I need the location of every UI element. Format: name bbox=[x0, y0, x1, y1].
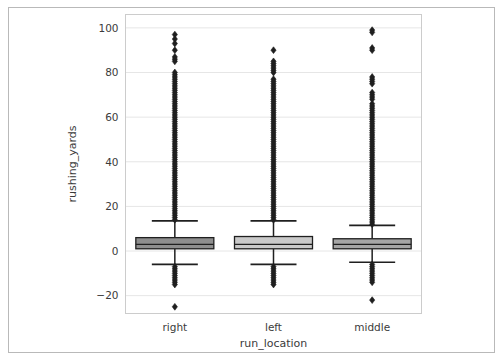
x-tick-label-right: right bbox=[162, 321, 187, 333]
x-tick-label-left: left bbox=[265, 321, 282, 333]
y-tick-label: 20 bbox=[105, 200, 118, 212]
y-tick-label: 80 bbox=[105, 66, 118, 78]
boxplot-right bbox=[136, 31, 214, 310]
flier-point bbox=[271, 47, 276, 54]
boxplot-middle bbox=[333, 27, 411, 304]
flier-point bbox=[172, 303, 177, 310]
y-tick-label: 0 bbox=[112, 245, 119, 257]
y-axis-title: rushing_yards bbox=[66, 125, 79, 202]
x-axis-title: run_location bbox=[240, 337, 308, 350]
y-tick-label: −20 bbox=[96, 289, 118, 301]
boxplot-left bbox=[235, 47, 313, 288]
flier-point bbox=[370, 297, 375, 304]
flier-point bbox=[172, 40, 177, 47]
box-body bbox=[136, 238, 214, 249]
y-tick-labels: 100806040200−20 bbox=[96, 22, 118, 302]
y-tick-label: 100 bbox=[98, 22, 118, 34]
y-tick-label: 40 bbox=[105, 156, 118, 168]
boxplot-chart: 100806040200−20rushing_yardsrightleftmid… bbox=[0, 0, 503, 361]
matplotlib-figure: 100806040200−20rushing_yardsrightleftmid… bbox=[0, 0, 503, 361]
fliers-right bbox=[172, 31, 177, 310]
box-body bbox=[235, 237, 313, 249]
flier-point bbox=[172, 47, 177, 54]
x-tick-labels: rightleftmiddle bbox=[162, 321, 390, 333]
y-tick-label: 60 bbox=[105, 111, 118, 123]
x-tick-label-middle: middle bbox=[354, 321, 390, 333]
